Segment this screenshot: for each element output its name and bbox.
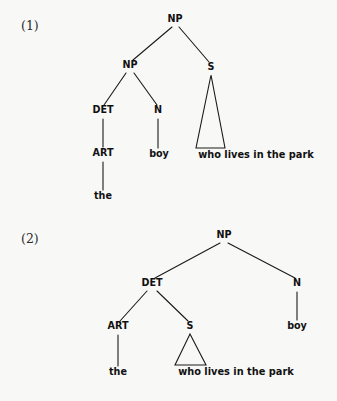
category-node-s2: S (187, 320, 194, 331)
category-node-det: DET (92, 104, 114, 115)
category-node-s_node: S (208, 61, 215, 72)
elided-clause-triangle (196, 75, 225, 148)
tree-branch-np_root-to-s_node (179, 27, 209, 62)
tree-branch-np_root-to-np_inner (133, 27, 172, 60)
tree-branch-np_root2-to-det2 (155, 243, 220, 278)
terminal-node-clause: who lives in the park (198, 149, 314, 160)
syntax-tree-figure: (1)NPNPSDETNARTboythewho lives in the pa… (0, 0, 337, 401)
tree-diagram-canvas: (1)NPNPSDETNARTboythewho lives in the pa… (0, 0, 337, 401)
tree-branch-np_root2-to-n2 (228, 243, 295, 278)
example-number-label: (1) (21, 18, 39, 33)
category-node-n: N (154, 104, 162, 115)
tree-example-1: (1)NPNPSDETNARTboythewho lives in the pa… (21, 13, 314, 201)
terminal-node-clause2: who lives in the park (178, 366, 294, 377)
tree-branch-np_inner-to-det (104, 73, 126, 105)
tree-branch-det2-to-s2 (157, 291, 188, 321)
tree-example-2: (2)NPDETNARTSboythewho lives in the park (21, 229, 308, 377)
category-node-art: ART (93, 147, 114, 158)
terminal-node-boy2: boy (287, 320, 307, 331)
tree-branch-det2-to-art2 (120, 291, 147, 321)
tree-branch-np_inner-to-n (134, 73, 157, 105)
terminal-node-the2: the (109, 366, 127, 377)
category-node-art2: ART (108, 320, 129, 331)
example-number-label: (2) (21, 231, 39, 246)
category-node-np_root: NP (167, 13, 182, 24)
elided-clause-triangle (175, 334, 206, 365)
terminal-node-the: the (94, 190, 112, 201)
category-node-n2: N (293, 277, 301, 288)
category-node-np_inner: NP (122, 59, 137, 70)
category-node-np_root2: NP (216, 229, 231, 240)
terminal-node-boy: boy (149, 148, 169, 159)
category-node-det2: DET (141, 277, 163, 288)
